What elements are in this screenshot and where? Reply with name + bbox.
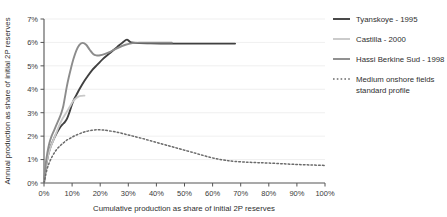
legend-label: Castilla - 2000 bbox=[356, 35, 407, 44]
x-axis-title: Cumulative production as share of initia… bbox=[93, 204, 275, 213]
y-tick-label: 4% bbox=[27, 85, 38, 94]
y-tick-label: 1% bbox=[27, 155, 38, 164]
legend-label: Tyanskoye - 1995 bbox=[356, 15, 418, 24]
y-tick-label: 2% bbox=[27, 132, 38, 141]
legend-label: standard profile bbox=[356, 86, 410, 95]
x-tick-label: 50% bbox=[177, 189, 192, 198]
y-axis-title: Annual production as share of initial 2P… bbox=[3, 17, 12, 184]
x-tick-label: 90% bbox=[289, 189, 304, 198]
x-tick-label: 0% bbox=[39, 189, 50, 198]
legend-item-5[interactable]: standard profile bbox=[356, 86, 410, 95]
x-tick-label: 100% bbox=[315, 189, 335, 198]
x-tick-label: 60% bbox=[205, 189, 220, 198]
y-tick-label: 6% bbox=[27, 38, 38, 47]
x-tick-label: 80% bbox=[261, 189, 276, 198]
chart-container: 0%1%2%3%4%5%6%7% 0%10%20%30%40%50%60%70%… bbox=[0, 0, 447, 217]
legend-label: Medium onshore fields bbox=[356, 75, 435, 84]
x-tick-label: 40% bbox=[149, 189, 164, 198]
y-tick-label: 5% bbox=[27, 62, 38, 71]
chart-background bbox=[0, 0, 447, 217]
x-tick-label: 70% bbox=[233, 189, 248, 198]
y-tick-label: 0% bbox=[27, 179, 38, 188]
line-chart: 0%1%2%3%4%5%6%7% 0%10%20%30%40%50%60%70%… bbox=[0, 0, 447, 217]
x-tick-label: 20% bbox=[93, 189, 108, 198]
y-tick-label: 7% bbox=[27, 15, 38, 24]
x-tick-label: 30% bbox=[121, 189, 136, 198]
y-tick-label: 3% bbox=[27, 109, 38, 118]
x-tick-label: 10% bbox=[65, 189, 80, 198]
legend-label: Hassi Berkine Sud - 1998 bbox=[356, 55, 444, 64]
